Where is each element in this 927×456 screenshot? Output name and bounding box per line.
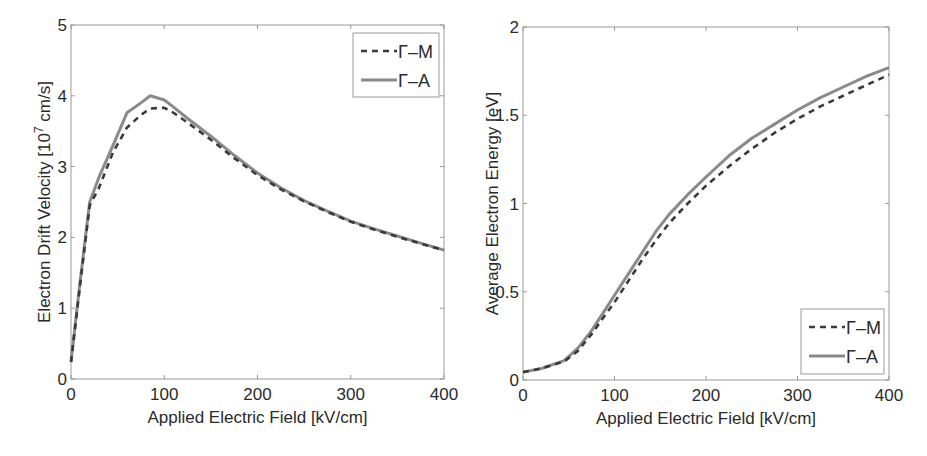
legend-label: Γ–M [398,42,433,62]
y-tick-label: 0 [58,370,67,389]
legend-label: Γ–A [846,347,878,367]
y-axis-label: Average Electron Energy [eV] [483,92,502,316]
y-axis-label-unit: cm/s] [35,81,54,126]
x-tick-label: 0 [518,386,527,405]
x-tick-label: 100 [150,385,178,404]
legend-label: Γ–M [846,318,881,338]
legend-label: Γ–A [398,71,430,91]
x-tick-label: 200 [243,385,271,404]
y-tick-label: 0 [510,371,519,390]
y-tick-label: 5 [58,16,67,35]
y-tick-label: 1 [510,195,519,214]
y-tick-label: 2 [58,228,67,247]
x-tick-label: 100 [600,386,628,405]
x-tick-label: 400 [875,386,903,405]
electron-energy-plot: 010020030040000.511.52Applied Electric F… [483,18,903,428]
y-tick-label: 1 [58,299,67,318]
y-tick-label: 3 [58,158,67,177]
x-tick-label: 300 [783,386,811,405]
x-axis-label: Applied Electric Field [kV/cm] [147,408,367,427]
drift-velocity-plot: 0100200300400012345Applied Electric Fiel… [32,16,458,427]
figure: 0100200300400012345Applied Electric Fiel… [0,0,927,456]
x-tick-label: 400 [430,385,458,404]
x-tick-label: 200 [692,386,720,405]
y-tick-label: 2 [510,18,519,37]
y-tick-label: 4 [58,87,67,106]
x-tick-label: 0 [66,385,75,404]
y-axis-label: Electron Drift Velocity [107 cm/s] [32,81,54,323]
x-axis-label: Applied Electric Field [kV/cm] [596,409,816,428]
x-tick-label: 300 [337,385,365,404]
y-axis-label-main: Electron Drift Velocity [10 [35,133,54,323]
